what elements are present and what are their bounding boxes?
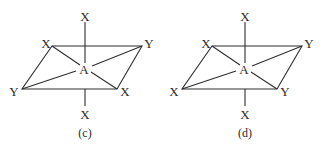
octahedral-isomer-diagrams: X X A X Y Y X (c) X X A X Y X Y (d) [0,0,320,147]
bond-top-right [92,46,142,66]
bond-top-left [52,46,80,65]
ligand-bottom-left: X [169,84,179,99]
bond-bottom-left [182,71,236,89]
caption-d: (d) [238,126,252,140]
ligand-top-left: X [201,36,211,51]
ligand-bottom-right: Y [280,84,290,99]
ligand-top-right: Y [144,36,154,51]
panel-c: X X A X Y Y X (c) [9,9,154,140]
bond-bottom-right [251,72,277,89]
caption-c: (c) [78,126,91,140]
ligand-bottom: X [80,107,90,122]
central-atom: A [79,62,89,77]
bond-bottom-right [91,72,117,89]
panel-d: X X A X Y X Y (d) [169,9,314,140]
ligand-top-left: X [41,36,51,51]
ligand-bottom-left: Y [9,84,19,99]
ligand-bottom: X [240,107,250,122]
central-atom: A [239,62,249,77]
ligand-top-right: Y [304,36,314,51]
ligand-top: X [80,9,90,24]
ligand-top: X [240,9,250,24]
bond-top-right [252,46,302,66]
bond-bottom-left [22,71,76,89]
bond-top-left [212,46,240,65]
ligand-bottom-right: X [120,84,130,99]
